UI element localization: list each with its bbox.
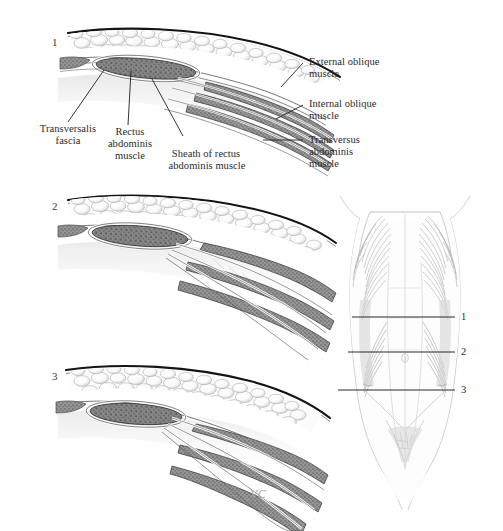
label-transversus-line2: abdominis bbox=[309, 146, 353, 158]
panel-2-cross-section bbox=[58, 193, 336, 360]
label-sheath-of-rectus-line1: Sheath of rectus bbox=[154, 148, 258, 160]
panel-number-2: 2 bbox=[52, 200, 58, 212]
label-rectus-abdominis-line2: abdominis bbox=[99, 138, 161, 150]
panel-number-3: 3 bbox=[52, 370, 58, 382]
label-external-oblique-line1: External oblique bbox=[309, 56, 380, 68]
label-external-oblique-line2: muscle bbox=[309, 68, 339, 80]
cut-level-number-1: 1 bbox=[461, 311, 466, 322]
abdominal-wall-illustration bbox=[0, 0, 503, 531]
artist-signature: VC bbox=[250, 487, 266, 502]
label-rectus-abdominis-line1: Rectus bbox=[99, 126, 161, 138]
label-transversus-line3: muscle bbox=[309, 158, 339, 170]
label-transversus-line1: Transversus bbox=[309, 134, 360, 146]
label-sheath-of-rectus-line2: abdominis muscle bbox=[148, 160, 266, 172]
anatomy-figure-page: 1 2 3 External oblique muscle Internal o… bbox=[0, 0, 503, 531]
panel-3-cross-section bbox=[56, 364, 330, 531]
label-internal-oblique-line2: muscle bbox=[309, 110, 339, 122]
label-internal-oblique-line1: Internal oblique bbox=[309, 98, 377, 110]
medial-muscle-stub-2 bbox=[58, 225, 88, 237]
cut-level-number-2: 2 bbox=[461, 346, 466, 357]
panel-number-1: 1 bbox=[52, 36, 58, 48]
torso-diagram bbox=[338, 196, 470, 510]
cut-level-number-3: 3 bbox=[461, 384, 466, 395]
transversus-abdominis-muscle-3 bbox=[170, 466, 306, 531]
medial-muscle-stub-1 bbox=[60, 57, 90, 69]
medial-muscle-stub-3 bbox=[56, 401, 86, 413]
